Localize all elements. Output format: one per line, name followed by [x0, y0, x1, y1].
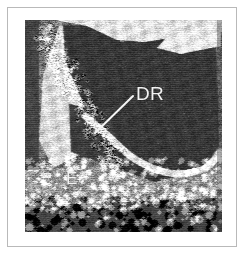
ultrasound-scan-image: DR E — [25, 20, 222, 232]
figure-root: DR E — [0, 0, 247, 255]
scan-raster-canvas — [25, 20, 222, 232]
